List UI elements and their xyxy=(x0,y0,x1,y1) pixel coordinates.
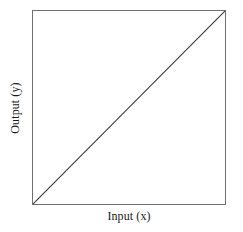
y-axis-label-container: Output (y) xyxy=(0,10,30,205)
plot-line-svg xyxy=(33,11,225,204)
identity-line xyxy=(33,11,225,204)
y-axis-label: Output (y) xyxy=(8,82,22,133)
x-axis-label: Input (x) xyxy=(32,208,226,224)
figure-canvas: Output (y) Input (x) xyxy=(0,0,243,232)
plot-area xyxy=(32,10,226,205)
